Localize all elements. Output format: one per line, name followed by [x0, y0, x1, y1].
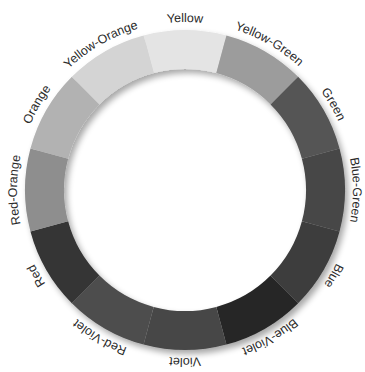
label-blue-green: Blue-Green	[347, 156, 364, 223]
label-red: Red	[24, 262, 48, 289]
segment-yellow	[144, 30, 227, 73]
label-yellow: Yellow	[166, 11, 204, 26]
wheel-segments	[25, 30, 345, 350]
color-wheel: YellowYellow-GreenGreenBlue-GreenBlueBlu…	[0, 0, 365, 372]
label-violet: Violet	[168, 354, 201, 369]
segment-violet	[144, 307, 227, 350]
segment-blue-green	[302, 149, 345, 232]
segment-red-orange	[25, 149, 68, 232]
label-red-orange: Red-Orange	[6, 154, 24, 226]
